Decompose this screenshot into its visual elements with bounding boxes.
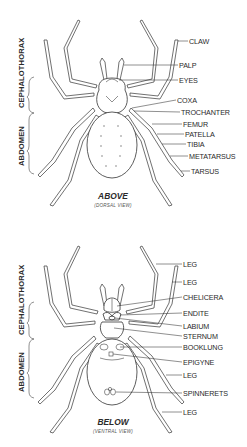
- label-labium: LABIUM: [183, 322, 209, 331]
- legs-right-ventral: [124, 246, 184, 433]
- label-spinnerets: SPINNERETS: [183, 389, 228, 398]
- ventral-view: CEPHALOTHORAX ABDOMEN: [17, 246, 228, 434]
- labium: [109, 316, 115, 320]
- region-label-abdomen-ventral: ABDOMEN: [17, 352, 26, 392]
- palp-right: [117, 58, 124, 80]
- label-tibia: TIBIA: [187, 140, 205, 149]
- label-epigyne: EPIGYNE: [183, 358, 215, 367]
- legs-left-ventral: [38, 246, 100, 433]
- spider-anatomy-diagram: CEPHALOTHORAX ABDOMEN: [0, 0, 247, 447]
- label-leg-2: LEG: [183, 278, 198, 287]
- caption-dorsal-view: (DORSAL VIEW): [94, 203, 132, 208]
- legs-left: [38, 20, 99, 206]
- label-patella: PATELLA: [185, 130, 215, 139]
- region-label-cephalothorax: CEPHALOTHORAX: [17, 38, 26, 109]
- label-sternum: STERNUM: [183, 332, 218, 341]
- label-endite: ENDITE: [183, 309, 209, 318]
- abdomen: [87, 112, 137, 178]
- caption-ventral-view: (VENTRAL VIEW): [93, 429, 133, 434]
- label-eyes: EYES: [179, 76, 198, 85]
- label-metatarsus: METATARSUS: [189, 152, 236, 161]
- label-leg-3: LEG: [183, 371, 198, 380]
- brace-abdomen-ventral: [27, 339, 34, 398]
- label-leg-4: LEG: [183, 408, 198, 417]
- palp-left: [100, 58, 107, 80]
- label-leg-1: LEG: [183, 260, 198, 269]
- sternum: [100, 322, 123, 338]
- dorsal-view: CEPHALOTHORAX ABDOMEN: [17, 20, 236, 208]
- caption-above: ABOVE: [97, 191, 128, 201]
- region-label-abdomen: ABDOMEN: [17, 126, 26, 166]
- caption-below: BELOW: [97, 417, 129, 427]
- cephalothorax: [97, 78, 128, 114]
- label-femur: FEMUR: [183, 120, 208, 129]
- label-claw: CLAW: [189, 37, 209, 46]
- brace-cephalothorax: [27, 77, 34, 113]
- legs-right: [125, 20, 184, 206]
- label-chelicera: CHELICERA: [183, 293, 224, 302]
- label-coxa: COXA: [177, 96, 197, 105]
- brace-cephalothorax-ventral: [27, 302, 34, 339]
- region-label-cephalothorax-ventral: CEPHALOTHORAX: [17, 265, 26, 336]
- label-tarsus: TARSUS: [191, 167, 219, 176]
- label-trochanter: TROCHANTER: [181, 108, 230, 117]
- brace-abdomen: [27, 113, 34, 174]
- label-booklung: BOOKLUNG: [183, 343, 223, 352]
- label-palp: PALP: [179, 61, 197, 70]
